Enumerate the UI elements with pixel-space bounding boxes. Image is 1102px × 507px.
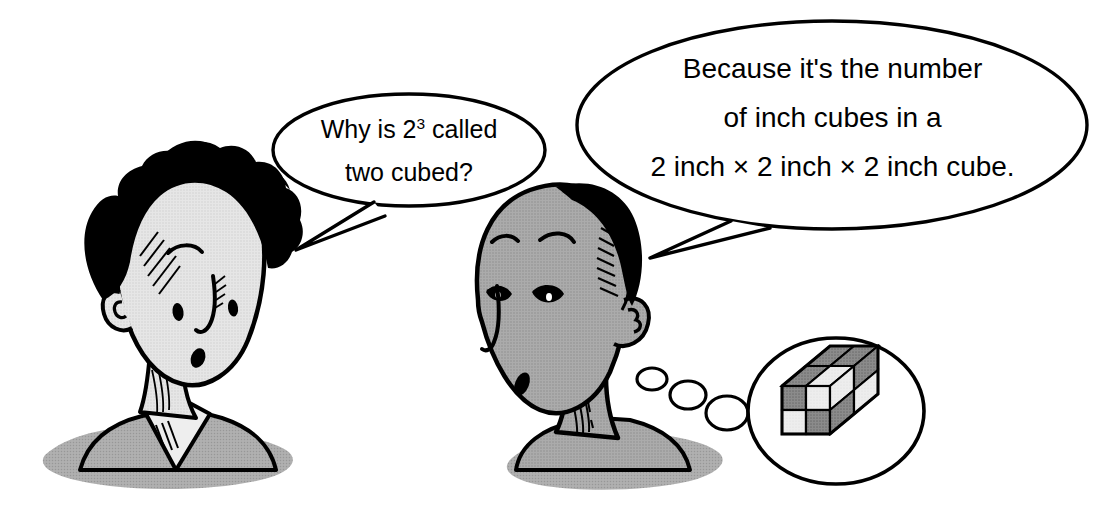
right-speech-bubble-body[interactable] — [577, 21, 1087, 229]
cube-front-cell-bl — [782, 410, 806, 434]
thought-dot-large — [706, 396, 748, 430]
left-speech-bubble-body[interactable] — [273, 94, 545, 206]
cube-front-cell-tr — [806, 386, 830, 410]
cube-front-cell-tl — [782, 386, 806, 410]
cube-front-face — [782, 386, 830, 434]
right-speech-bubble-tail — [650, 221, 770, 258]
left-boy — [80, 141, 303, 470]
right-speech-bubble[interactable] — [577, 21, 1087, 258]
left-speech-bubble-tail — [296, 202, 385, 250]
right-boy — [477, 183, 690, 470]
thought-dot-small — [637, 368, 667, 390]
cartoon-scene: Why is 23 called two cubed? Because it's… — [0, 0, 1102, 507]
artwork-layer — [0, 0, 1102, 507]
cube-front-cell-br — [806, 410, 830, 434]
thought-dot-medium — [670, 381, 706, 409]
